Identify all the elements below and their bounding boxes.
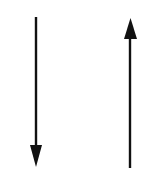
up-arrow-icon — [124, 18, 137, 168]
up-arrow-head — [124, 18, 137, 39]
diagram-canvas — [0, 0, 163, 174]
down-arrow-icon — [30, 17, 42, 167]
down-arrow-head — [30, 145, 42, 167]
